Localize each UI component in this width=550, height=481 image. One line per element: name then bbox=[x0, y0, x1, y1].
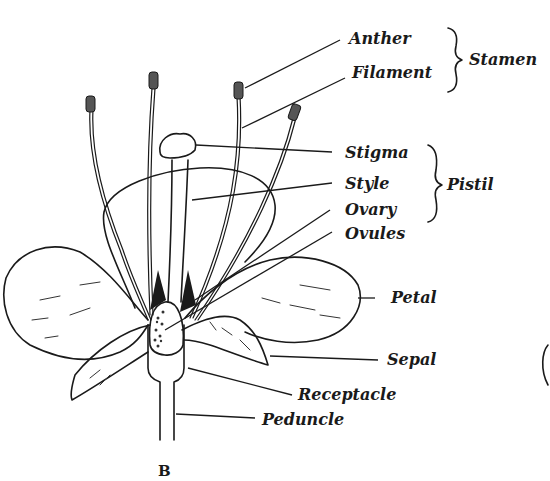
label-style: Style bbox=[345, 176, 390, 192]
filament-2b bbox=[151, 88, 155, 315]
filament-3 bbox=[190, 96, 238, 318]
label-stamen: Stamen bbox=[469, 52, 537, 68]
leader-sepal bbox=[270, 356, 378, 360]
ovules bbox=[154, 311, 165, 348]
anther-3 bbox=[234, 82, 243, 99]
label-stigma: Stigma bbox=[345, 145, 409, 161]
leader-receptacle bbox=[188, 368, 292, 395]
label-anther: Anther bbox=[349, 31, 411, 47]
stigma bbox=[160, 134, 196, 158]
receptacle bbox=[148, 325, 184, 440]
label-sepal: Sepal bbox=[387, 352, 436, 368]
partial-figure-edge bbox=[543, 345, 548, 385]
label-filament: Filament bbox=[352, 65, 432, 81]
stamen-brace bbox=[448, 28, 462, 92]
label-pistil: Pistil bbox=[447, 177, 494, 193]
figure-label: B bbox=[158, 462, 171, 480]
label-ovules: Ovules bbox=[345, 226, 405, 242]
label-petal: Petal bbox=[391, 290, 437, 306]
flower-illustration bbox=[0, 0, 550, 481]
leader-style bbox=[192, 183, 332, 200]
anther-4 bbox=[288, 103, 302, 121]
leader-peduncle bbox=[176, 414, 255, 418]
flower-diagram: Anther Filament Stamen Stigma Style Ovar… bbox=[0, 0, 550, 481]
leader-stigma bbox=[196, 145, 332, 152]
filament-1 bbox=[90, 110, 148, 320]
label-receptacle: Receptacle bbox=[298, 387, 396, 403]
leader-anther bbox=[245, 40, 340, 88]
label-peduncle: Peduncle bbox=[262, 412, 344, 428]
anther-2 bbox=[149, 72, 158, 89]
anther-1 bbox=[86, 96, 95, 112]
style bbox=[168, 160, 188, 302]
label-ovary: Ovary bbox=[345, 202, 396, 218]
left-sepal bbox=[71, 325, 150, 400]
left-petal bbox=[4, 247, 148, 359]
right-sepal bbox=[182, 316, 268, 365]
pistil-brace bbox=[428, 145, 442, 222]
